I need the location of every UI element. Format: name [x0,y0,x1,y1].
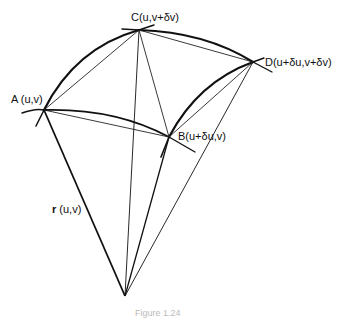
chord-C-B [139,30,169,137]
figure-caption: Figure 1.24 [135,309,181,318]
chord-B-D [169,62,253,137]
position-vector-B [125,137,169,296]
position-vector-D [125,62,253,296]
vector-args: (u,v) [56,203,81,215]
label-point-B: B(u+δu,v) [178,131,226,142]
v-curve-through-C [122,29,139,30]
label-point-A: A (u,v) [11,94,43,105]
chord-C-D [139,30,253,62]
position-vector-C [125,30,139,296]
v-curve-through-A [22,109,44,113]
u-curve-through-D [253,58,264,62]
label-point-C: C(u,v+δv) [131,12,179,23]
label-point-D: D(u+δu,v+δv) [265,57,332,68]
label-position-vector: r (u,v) [52,204,81,215]
chord-A-C [44,30,139,110]
u-curve-through-A [36,110,44,126]
